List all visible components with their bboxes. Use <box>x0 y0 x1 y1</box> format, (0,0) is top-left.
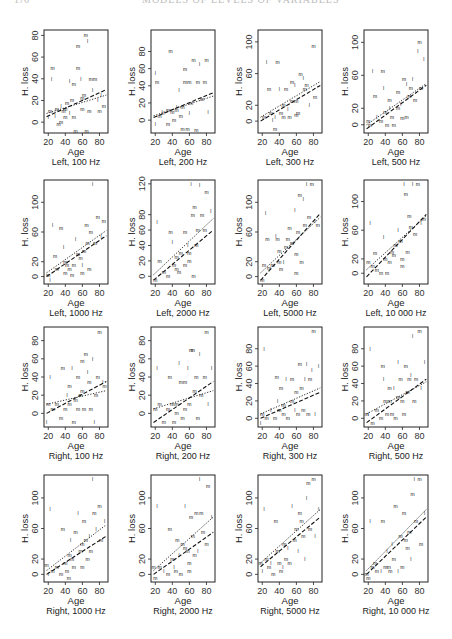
y-axis-label: H. loss <box>339 514 350 543</box>
x-axis-label: Age <box>175 297 192 308</box>
data-point: m <box>76 374 80 380</box>
data-point: l <box>104 518 105 524</box>
data-point: m <box>279 266 283 272</box>
y-tick-label: 20 <box>244 554 254 564</box>
data-point: m <box>203 374 207 380</box>
data-point: m <box>93 240 97 246</box>
data-point: m <box>404 191 408 197</box>
data-point: m <box>273 415 277 421</box>
data-point: m <box>414 518 418 524</box>
data-point: m <box>44 562 48 568</box>
data-point: m <box>72 81 76 87</box>
data-point: m <box>273 126 277 132</box>
x-axis-label: Age <box>282 440 299 451</box>
data-point: m <box>375 407 379 413</box>
data-point: l <box>163 110 164 116</box>
data-point: l <box>412 333 413 339</box>
data-point: m <box>102 218 106 224</box>
data-point: m <box>70 272 74 278</box>
data-point: m <box>187 568 191 574</box>
data-point: l <box>172 239 173 245</box>
panel-3: 2040608002060100AgeH. lossLeft, 300 Hzml… <box>233 30 322 167</box>
y-tick-label: 80 <box>137 210 147 220</box>
y-tick-label: 0 <box>350 416 360 421</box>
data-point: m <box>370 420 374 426</box>
x-tick-label: 20 <box>43 288 53 298</box>
fit-line-dashed <box>154 93 214 118</box>
data-point: m <box>311 328 315 334</box>
data-point: m <box>151 564 155 570</box>
panel-2: 20406080020406080AgeH. lossLeft, 200 Hzl… <box>126 30 215 167</box>
panel-1: 20406080020406080AgeH. lossLeft, 100 Hzl… <box>19 30 108 167</box>
data-point: l <box>199 476 200 482</box>
data-point: m <box>82 406 86 412</box>
data-point: l <box>70 537 71 543</box>
panel-14: 2040608002060100AgeH. lossRight, 2000 Hz… <box>126 475 215 616</box>
data-point: m <box>180 126 184 132</box>
data-point: m <box>65 100 69 106</box>
data-point: m <box>97 108 101 114</box>
data-point: m <box>72 419 76 425</box>
data-point: m <box>379 118 383 124</box>
data-point: m <box>80 358 84 364</box>
y-tick-label: 0 <box>137 411 147 416</box>
data-point: m <box>381 68 385 74</box>
data-point: l <box>287 545 288 551</box>
x-tick-label: 80 <box>201 288 211 298</box>
data-point: l <box>92 476 93 482</box>
panel-caption: Right, 10 000 Hz <box>362 606 430 616</box>
data-point: l <box>368 411 369 417</box>
data-point: l <box>260 420 261 426</box>
data-point: m <box>301 533 305 539</box>
data-point: l <box>262 568 263 574</box>
data-point: m <box>53 253 57 259</box>
data-point: l <box>82 262 83 268</box>
y-tick-label: 20 <box>30 95 40 105</box>
y-axis-label: H. loss <box>339 217 350 246</box>
data-point: l <box>199 61 200 67</box>
data-point: m <box>299 518 303 524</box>
y-axis-label: H. loss <box>19 217 30 246</box>
data-point: l <box>97 97 98 103</box>
y-tick-label: 100 <box>350 490 360 505</box>
data-point: m <box>189 514 193 520</box>
data-point: m <box>187 258 191 264</box>
x-tick-label: 80 <box>201 431 211 441</box>
y-tick-label: 20 <box>30 554 40 564</box>
data-point: m <box>400 398 404 404</box>
data-point: m <box>204 541 208 547</box>
data-point: l <box>398 568 399 574</box>
data-point: m <box>277 560 281 566</box>
panel-caption: Right, 500 Hz <box>369 451 424 461</box>
x-axis-label: Age <box>388 440 405 451</box>
data-point: m <box>166 571 170 577</box>
data-point: l <box>199 182 200 188</box>
y-tick-label: 60 <box>30 227 40 237</box>
data-point: m <box>186 126 190 132</box>
data-point: l <box>292 503 293 509</box>
x-tick-label: 80 <box>94 288 104 298</box>
x-axis-label: Age <box>388 297 405 308</box>
data-point: l <box>199 351 200 357</box>
data-point: m <box>87 108 91 114</box>
y-tick-label: 40 <box>137 240 147 250</box>
data-point: m <box>287 114 291 120</box>
data-point: l <box>208 109 209 115</box>
data-point: m <box>191 212 195 218</box>
y-tick-label: 0 <box>244 274 254 279</box>
data-point: m <box>277 248 281 254</box>
data-point: m <box>286 236 290 242</box>
data-point: m <box>89 548 93 554</box>
data-point: m <box>93 76 97 82</box>
fit-line-dotted <box>367 216 427 270</box>
y-tick-label: 20 <box>244 396 254 406</box>
y-tick-label: 0 <box>244 572 254 577</box>
data-point: l <box>383 85 384 91</box>
data-point: m <box>192 552 196 558</box>
y-axis-label: H. loss <box>126 217 137 246</box>
data-point: l <box>66 392 67 398</box>
data-point: m <box>409 85 413 91</box>
panel-15: 2040608002060100AgeH. lossRight, 5000 Hz… <box>233 475 322 616</box>
x-axis-label: Age <box>282 595 299 606</box>
data-point: m <box>82 518 86 524</box>
